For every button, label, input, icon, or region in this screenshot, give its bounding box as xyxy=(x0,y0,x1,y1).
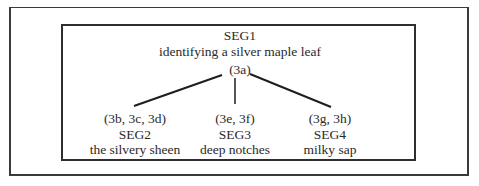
node-seg3: (3e, 3f) SEG3 deep notches xyxy=(190,111,280,158)
edge-seg1-seg4 xyxy=(250,74,331,107)
node-seg2-refs: (3b, 3c, 3d) xyxy=(75,111,195,127)
edge-seg1-seg2 xyxy=(134,75,222,106)
node-seg3-description: deep notches xyxy=(190,142,280,158)
node-seg4-description: milky sap xyxy=(285,142,375,158)
node-seg2-label: SEG2 xyxy=(75,127,195,143)
node-seg1: SEG1 identifying a silver maple leaf (3a… xyxy=(140,28,340,78)
node-seg4-refs: (3g, 3h) xyxy=(285,111,375,127)
node-seg4: (3g, 3h) SEG4 milky sap xyxy=(285,111,375,158)
node-seg1-label: SEG1 xyxy=(140,28,340,44)
node-seg3-label: SEG3 xyxy=(190,127,280,143)
node-seg3-refs: (3e, 3f) xyxy=(190,111,280,127)
node-seg4-label: SEG4 xyxy=(285,127,375,143)
node-seg2: (3b, 3c, 3d) SEG2 the silvery sheen xyxy=(75,111,195,158)
node-seg2-description: the silvery sheen xyxy=(75,142,195,158)
node-seg1-description: identifying a silver maple leaf xyxy=(140,44,340,60)
node-seg1-refs: (3a) xyxy=(140,62,340,78)
